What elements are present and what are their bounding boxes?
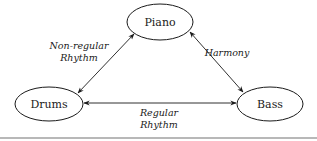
node-piano-label: Piano	[144, 16, 176, 29]
node-bass-label: Bass	[257, 98, 283, 111]
node-drums-label: Drums	[30, 98, 68, 111]
edge-label-rhythm-2: Rhythm	[139, 119, 178, 130]
node-drums: Drums	[15, 87, 83, 121]
edge-label-regular: Regular	[139, 107, 180, 118]
edge-piano-bass-arrow	[190, 32, 243, 92]
edge-label-non-regular: Non-regular	[49, 40, 110, 51]
node-bass: Bass	[237, 87, 303, 121]
instrument-relationship-diagram: Piano Drums Bass Non-regular Rhythm Harm…	[0, 0, 317, 141]
edge-label-harmony: Harmony	[204, 47, 250, 58]
node-piano: Piano	[127, 4, 193, 40]
edge-label-rhythm-1: Rhythm	[59, 52, 98, 63]
bottom-divider	[0, 137, 317, 139]
